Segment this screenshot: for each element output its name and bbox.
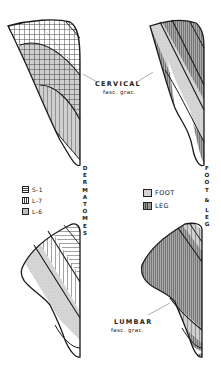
foot-and-leg-vertical-label: F O O T & L E G bbox=[203, 165, 211, 229]
dense-vertical-swatch-icon bbox=[143, 202, 152, 210]
legend-item-l6: L-6 bbox=[22, 206, 43, 217]
dermatomes-vertical-label: D E R M A T O M E S bbox=[81, 165, 89, 237]
panel-lumbar-foot-leg bbox=[135, 220, 210, 365]
stipple-swatch-icon bbox=[22, 208, 29, 215]
vertical-hatch-swatch-icon bbox=[22, 197, 29, 204]
legend-item-s1: S-1 bbox=[22, 184, 43, 195]
lumbar-leader bbox=[148, 303, 170, 315]
legend-item-foot: FOOT bbox=[143, 186, 175, 199]
dermatome-legend: S-1 L-7 L-6 bbox=[22, 184, 43, 217]
legend-item-leg: LEG bbox=[143, 199, 175, 212]
panel-cervical-foot-leg bbox=[140, 15, 210, 175]
foot-leg-legend: FOOT LEG bbox=[143, 186, 175, 212]
light-stipple-swatch-icon bbox=[143, 189, 152, 197]
lumbar-sublabel: fasc. grac. bbox=[111, 327, 144, 333]
panel-lumbar-dermatomes bbox=[10, 220, 85, 365]
cervical-sublabel: fasc. grac. bbox=[103, 89, 136, 95]
cervical-label: CERVICAL bbox=[95, 80, 141, 88]
legend-item-l7: L-7 bbox=[22, 195, 43, 206]
lumbar-label: LUMBAR bbox=[114, 318, 152, 326]
horizontal-hatch-swatch-icon bbox=[22, 186, 29, 193]
panel-cervical-dermatomes bbox=[0, 15, 85, 175]
